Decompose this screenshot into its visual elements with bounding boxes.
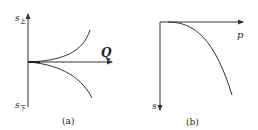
panel-b: p s (b) (152, 22, 244, 127)
panel-b-x-label: p (237, 29, 244, 40)
panel-a-upper-curve (28, 30, 90, 62)
panel-a-x-label: Q (101, 46, 112, 60)
panel-a-y-top-label: s上 (15, 13, 26, 24)
panel-b-caption: (b) (186, 117, 199, 127)
panel-b-y-label: s (152, 101, 157, 111)
figure: s上 s下 Q (a) p s (b) (0, 0, 258, 130)
panel-b-curve (168, 22, 232, 95)
panel-a: s上 s下 Q (a) (15, 13, 112, 126)
panel-a-y-bottom-label: s下 (15, 100, 26, 112)
panel-a-lower-curve (28, 62, 92, 98)
panel-a-caption: (a) (62, 116, 74, 126)
